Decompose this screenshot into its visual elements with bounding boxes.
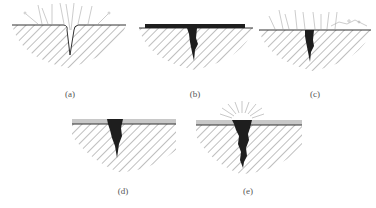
- excess-removed-diagram: [255, 0, 375, 75]
- panel-c-label: (c): [300, 89, 330, 99]
- panel-a: [8, 0, 128, 75]
- glow-rays: [220, 101, 264, 118]
- panel-e-label: (e): [233, 186, 263, 196]
- penetrant-layer: [145, 24, 245, 28]
- penetrant-applied-diagram: [135, 0, 255, 75]
- panel-d-label: (d): [108, 186, 138, 196]
- crack-open-diagram: [8, 0, 128, 75]
- developer-layer: [72, 119, 176, 124]
- panel-b: [135, 0, 255, 75]
- indication-bleedout-diagram: [192, 100, 304, 178]
- panel-c: [255, 0, 375, 75]
- panel-b-label: (b): [180, 89, 210, 99]
- developer-applied-diagram: [70, 110, 180, 175]
- cleaning-rays: [269, 10, 367, 29]
- panel-a-label: (a): [55, 89, 85, 99]
- figure-caption: [170, 197, 310, 203]
- panel-d: [70, 110, 180, 175]
- panel-e: [192, 100, 304, 178]
